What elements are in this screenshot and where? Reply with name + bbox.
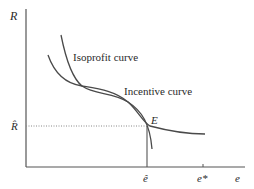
e-hat-label: ê <box>143 172 148 184</box>
incentive-curve-label: Incentive curve <box>124 85 192 97</box>
y-axis-label: R <box>9 9 18 23</box>
e-star-label: e* <box>197 172 208 184</box>
point-e-label: E <box>150 114 158 126</box>
x-axis-label: e <box>235 172 240 184</box>
r-hat-label: R̂ <box>10 120 18 132</box>
diagram-canvas: R e R̂ ê e* Isoprofit curve Incentive cu… <box>0 0 254 189</box>
isoprofit-curve-label: Isoprofit curve <box>73 51 138 63</box>
